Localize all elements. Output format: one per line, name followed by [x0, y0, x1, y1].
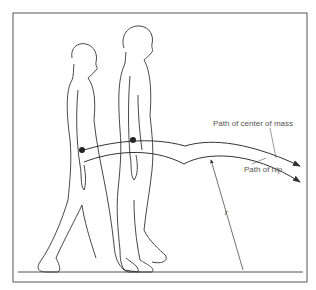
figure-front [117, 26, 166, 272]
radius-label: r [225, 208, 228, 217]
com-dot-2 [130, 137, 136, 143]
hip-label: Path of hip [244, 165, 282, 174]
frame [13, 13, 307, 282]
figure-back [38, 44, 138, 272]
illustration [0, 0, 316, 290]
center-of-mass-label: Path of center of mass [213, 119, 293, 128]
gait-diagram: Path of center of mass Path of hip r [0, 0, 316, 290]
